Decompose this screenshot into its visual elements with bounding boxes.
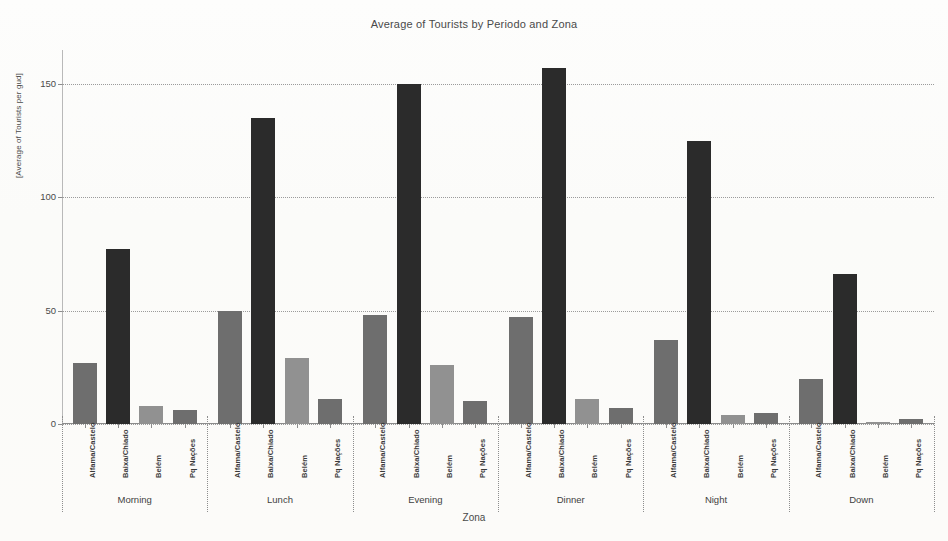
plot-frame [62,50,934,424]
x-category-label: Baixa/Chiado [702,429,711,478]
bar[interactable] [251,118,275,424]
x-category-label: Belém [154,455,163,478]
y-tick-mark-100 [58,197,62,198]
x-tick-mark [911,424,912,428]
bar[interactable] [173,410,197,424]
group-separator [934,416,935,512]
x-tick-mark [766,424,767,428]
y-tick-label-100: 100 [28,191,56,202]
y-axis-label: [Average of Tourists per gud] [14,73,23,178]
x-category-label: Belém [881,455,890,478]
bar[interactable] [754,413,778,424]
y-tick-mark-50 [58,311,62,312]
x-category-label: Pq Nações [769,439,778,478]
bar[interactable] [509,317,533,424]
gridline-150 [62,84,934,85]
x-tick-mark [330,424,331,428]
x-tick-mark [409,424,410,428]
group-label-evening: Evening [353,494,498,505]
x-category-label: Belém [300,455,309,478]
y-tick-label-0: 0 [28,418,56,429]
x-tick-mark [878,424,879,428]
x-tick-mark [230,424,231,428]
x-category-label: Alfama/Castelo [378,422,387,478]
x-tick-mark [733,424,734,428]
bar[interactable] [542,68,566,424]
x-tick-mark [475,424,476,428]
x-tick-mark [442,424,443,428]
x-category-label: Baixa/Chiado [848,429,857,478]
gridline-50 [62,311,934,312]
x-tick-mark [845,424,846,428]
x-category-label: Belém [445,455,454,478]
x-tick-mark [118,424,119,428]
x-category-label: Alfama/Castelo [524,422,533,478]
bar[interactable] [609,408,633,424]
group-label-lunch: Lunch [207,494,352,505]
bar[interactable] [833,274,857,424]
x-tick-mark [699,424,700,428]
plot-area: 050100150 [62,50,934,424]
bar[interactable] [430,365,454,424]
gridline-100 [62,197,934,198]
bar[interactable] [218,311,242,424]
x-category-label: Alfama/Castelo [88,422,97,478]
y-tick-mark-150 [58,84,62,85]
x-category-label: Pq Nações [914,439,923,478]
x-category-label: Alfama/Castelo [669,422,678,478]
y-tick-label-50: 50 [28,305,56,316]
x-tick-mark [521,424,522,428]
bar[interactable] [463,401,487,424]
bar[interactable] [363,315,387,424]
bar[interactable] [654,340,678,424]
bar[interactable] [687,141,711,424]
group-label-morning: Morning [62,494,207,505]
bar[interactable] [397,84,421,424]
x-category-label: Alfama/Castelo [233,422,242,478]
bar[interactable] [575,399,599,424]
x-category-label: Pq Nações [624,439,633,478]
bar[interactable] [285,358,309,424]
bar[interactable] [721,415,745,424]
x-tick-mark [375,424,376,428]
x-category-label: Pq Nações [188,439,197,478]
group-label-down: Down [789,494,934,505]
x-tick-mark [621,424,622,428]
bar[interactable] [799,379,823,424]
x-axis-label: Zona [0,512,948,523]
x-tick-mark [297,424,298,428]
x-category-label: Alfama/Castelo [814,422,823,478]
x-category-label: Baixa/Chiado [412,429,421,478]
x-tick-mark [263,424,264,428]
x-tick-mark [554,424,555,428]
x-tick-mark [151,424,152,428]
bar[interactable] [106,249,130,424]
bar[interactable] [139,406,163,424]
x-tick-mark [185,424,186,428]
y-tick-label-150: 150 [28,78,56,89]
chart-page: Average of Tourists by Periodo and Zona … [0,0,948,541]
group-label-night: Night [643,494,788,505]
x-category-label: Baixa/Chiado [557,429,566,478]
x-tick-mark [85,424,86,428]
x-category-label: Belém [590,455,599,478]
x-category-label: Baixa/Chiado [266,429,275,478]
x-category-label: Baixa/Chiado [121,429,130,478]
x-tick-mark [666,424,667,428]
x-tick-mark [811,424,812,428]
x-category-label: Belém [736,455,745,478]
chart-title: Average of Tourists by Periodo and Zona [0,18,948,30]
x-tick-mark [587,424,588,428]
x-category-label: Pq Nações [478,439,487,478]
bar[interactable] [73,363,97,424]
x-category-label: Pq Nações [333,439,342,478]
bar[interactable] [318,399,342,424]
group-label-dinner: Dinner [498,494,643,505]
